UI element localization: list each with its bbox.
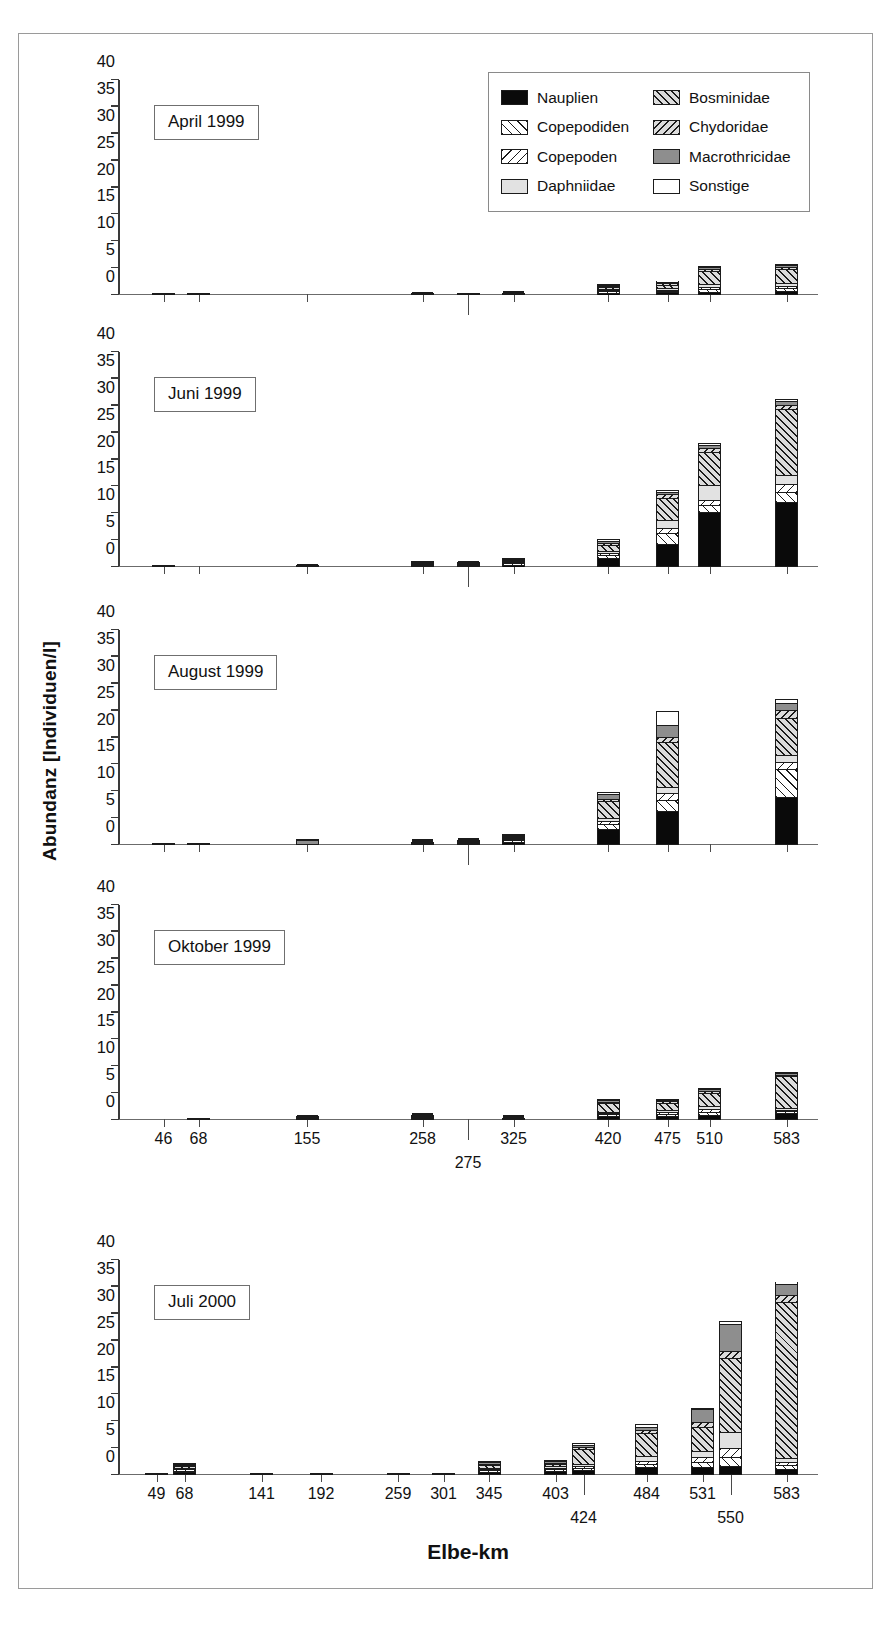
y-tick	[111, 1119, 119, 1121]
y-axis-title: Abundanz [Individuen/l]	[39, 541, 61, 961]
y-tick	[111, 1420, 119, 1422]
y-tick-label: 5	[73, 790, 115, 809]
stacked-bar	[187, 1118, 210, 1120]
panel-label-oktober-1999: Oktober 1999	[154, 930, 285, 965]
y-tick-label: 10	[73, 1393, 115, 1412]
x-tick	[423, 844, 424, 852]
bar-segment-bosminidae	[699, 272, 720, 285]
stacked-bar	[387, 1473, 410, 1475]
x-tick	[787, 844, 788, 852]
bar-segment-chydoridae	[720, 1352, 741, 1359]
panel-juli-2000: 0510152025303540Juli 2000496814119225930…	[118, 1260, 818, 1475]
legend-label: Daphniidae	[537, 177, 615, 195]
x-tick	[668, 844, 669, 852]
y-tick	[111, 1312, 119, 1314]
legend-label: Copepoden	[537, 148, 617, 166]
x-tick	[468, 844, 469, 865]
stacked-bar	[502, 293, 525, 295]
stacked-bar	[698, 443, 721, 567]
legend-item-sonstige: Sonstige	[653, 177, 811, 195]
legend-label: Bosminidae	[689, 89, 770, 107]
bar-segment-nauplien	[776, 292, 797, 294]
y-tick-label: 0	[73, 817, 115, 836]
bar-segment-bosminidae	[657, 1104, 678, 1112]
stacked-bar	[502, 558, 525, 567]
bar-segment-copepodiden	[503, 1118, 524, 1119]
y-tick-label: 0	[73, 1092, 115, 1111]
x-tick	[199, 566, 200, 574]
x-tick	[647, 1474, 648, 1482]
stacked-bar	[145, 1473, 168, 1475]
x-tick	[710, 566, 711, 574]
y-tick	[111, 1259, 119, 1261]
y-tick	[111, 431, 119, 433]
bar-segment-copepodiden	[657, 534, 678, 545]
bar-segment-macrothricidae	[692, 1410, 713, 1423]
bar-segment-copepodiden	[503, 293, 524, 294]
figure-root: Abundanz [Individuen/l] 0510152025303540…	[0, 0, 893, 1628]
bar-segment-nauplien	[776, 1114, 797, 1119]
bar-segment-macrothricidae	[657, 726, 678, 738]
y-tick	[111, 709, 119, 711]
bar-segment-nauplien	[657, 812, 678, 844]
legend-swatch-macrothricidae-icon	[653, 149, 680, 164]
bar-segment-nauplien	[720, 1467, 741, 1474]
x-tick-label: 258	[393, 1130, 453, 1148]
x-tick	[608, 566, 609, 574]
y-tick	[111, 213, 119, 215]
bar-segment-bosminidae	[636, 1434, 657, 1458]
x-tick	[185, 1474, 186, 1482]
legend-label: Copepodiden	[537, 118, 629, 136]
bar-segment-bosminidae	[598, 1104, 619, 1113]
x-tick-label: 550	[701, 1509, 761, 1527]
stacked-bar	[457, 562, 480, 567]
bar-segment-daphniidae	[720, 1433, 741, 1450]
bar-segment-copepodiden	[458, 565, 479, 566]
legend-swatch-nauplien-icon	[501, 90, 528, 105]
y-tick-label: 25	[73, 405, 115, 424]
bar-segment-bosminidae	[776, 1303, 797, 1459]
bar-segment-copepodiden	[657, 801, 678, 812]
bar-segment-daphniidae	[699, 486, 720, 501]
x-tick	[710, 844, 711, 852]
y-tick	[111, 294, 119, 296]
y-tick-label: 15	[73, 186, 115, 205]
bar-segment-nauplien	[776, 503, 797, 566]
bar-segment-copepoden	[720, 1449, 741, 1458]
chart-legend: NauplienBosminidaeCopepodidenChydoridaeC…	[488, 72, 810, 212]
stacked-bar	[411, 293, 434, 295]
bar-segment-nauplien	[699, 1116, 720, 1119]
stacked-bar	[152, 843, 175, 845]
bar-segment-nauplien	[657, 293, 678, 294]
bar-segment-daphniidae	[657, 521, 678, 529]
y-tick	[111, 904, 119, 906]
y-tick-label: 5	[73, 240, 115, 259]
x-tick	[787, 294, 788, 302]
y-tick	[111, 763, 119, 765]
bar-segment-copepoden	[657, 794, 678, 801]
y-tick-label: 40	[73, 52, 115, 71]
y-tick	[111, 736, 119, 738]
y-tick-label: 15	[73, 1011, 115, 1030]
stacked-bar	[250, 1473, 273, 1475]
bar-segment-nauplien	[699, 513, 720, 566]
y-tick-label: 10	[73, 1038, 115, 1057]
stacked-bar	[775, 1072, 798, 1120]
y-tick	[111, 458, 119, 460]
x-tick	[164, 294, 165, 302]
y-tick-label: 30	[73, 378, 115, 397]
x-tick-label: 403	[526, 1485, 586, 1503]
stacked-bar	[296, 565, 319, 567]
y-tick-label: 30	[73, 1286, 115, 1305]
x-tick	[514, 294, 515, 302]
x-tick-label: 583	[757, 1485, 817, 1503]
bar-segment-bosminidae	[776, 410, 797, 476]
bar-segment-copepodiden	[412, 1118, 433, 1119]
x-tick-label: 345	[459, 1485, 519, 1503]
bar-segment-bosminidae	[573, 1450, 594, 1465]
bar-segment-bosminidae	[720, 1359, 741, 1433]
bar-segment-macrothricidae	[776, 1285, 797, 1297]
y-tick-label: 20	[73, 160, 115, 179]
bar-segment-nauplien	[699, 293, 720, 294]
legend-swatch-bosminidae-icon	[653, 90, 680, 105]
